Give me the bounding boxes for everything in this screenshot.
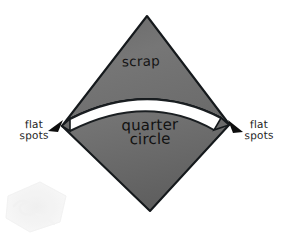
quarter-circle-label-line2: circle: [104, 131, 196, 148]
flat-spots-label-right: flat spots: [238, 119, 280, 141]
flat-spots-label-left: flat spots: [14, 119, 54, 141]
quarter-circle-label: quarter circle: [104, 117, 197, 148]
watermark-icon: [6, 182, 66, 232]
figure-canvas: scrap quarter circle flat spots flat spo…: [0, 0, 289, 240]
scrap-label: scrap: [122, 55, 160, 70]
flat-spots-label-left-line2: spots: [14, 129, 54, 140]
flat-spots-label-right-line2: spots: [238, 129, 280, 140]
